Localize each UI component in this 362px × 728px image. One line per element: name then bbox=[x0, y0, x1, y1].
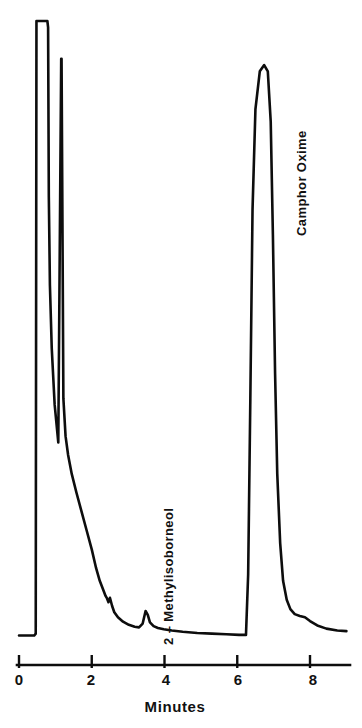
x-tick-label-0: 0 bbox=[7, 672, 31, 688]
x-tick-label-4: 4 bbox=[154, 672, 178, 688]
chromatogram-figure: 0 2 4 6 8 Minutes 2 – Methylisoborneol C… bbox=[0, 0, 362, 728]
x-tick-label-2: 2 bbox=[79, 672, 103, 688]
chromatogram-trace bbox=[19, 21, 346, 636]
x-tick-label-8: 8 bbox=[301, 672, 325, 688]
peak-label-camphor-oxime: Camphor Oxime bbox=[295, 130, 308, 236]
x-axis-title: Minutes bbox=[135, 698, 215, 715]
trace-group bbox=[19, 21, 346, 636]
x-axis-group bbox=[17, 655, 350, 668]
peak-label-methylisoborneol: 2 – Methylisoborneol bbox=[162, 508, 175, 645]
x-tick-label-6: 6 bbox=[226, 672, 250, 688]
chromatogram-plot bbox=[0, 0, 362, 728]
